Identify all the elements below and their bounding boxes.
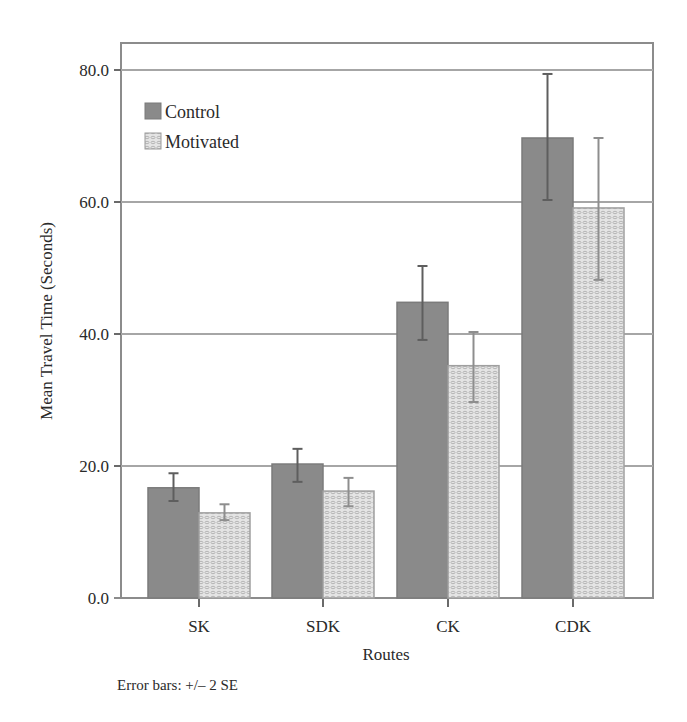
x-axis-title: Routes [362,645,409,664]
y-axis: 0.020.040.060.080.0 [79,61,121,608]
y-axis-title: Mean Travel Time (Seconds) [37,222,56,420]
bar-control-cdk [522,138,573,598]
bar-control-ck [397,302,448,598]
x-tick-label: CDK [555,617,592,636]
error-bars-footnote: Error bars: +/– 2 SE [117,677,238,693]
y-tick-label: 20.0 [79,457,109,476]
y-tick-label: 60.0 [79,193,109,212]
x-axis: SKSDKCKCDK [114,598,653,636]
x-tick-label: SK [188,617,210,636]
y-tick-label: 40.0 [79,325,109,344]
legend-label-motivated: Motivated [165,132,239,152]
legend-label-control: Control [165,102,220,122]
x-tick-label: CK [436,617,460,636]
x-tick-label: SDK [306,617,341,636]
legend-swatch-motivated [145,133,161,149]
y-tick-label: 80.0 [79,61,109,80]
bar-control-sk [148,488,199,598]
bar-motivated-sk [199,513,250,598]
legend-swatch-control [145,103,161,119]
bar-chart: 0.020.040.060.080.0 SKSDKCKCDK Control M… [0,0,687,722]
y-tick-label: 0.0 [88,589,109,608]
bar-control-sdk [272,464,323,598]
